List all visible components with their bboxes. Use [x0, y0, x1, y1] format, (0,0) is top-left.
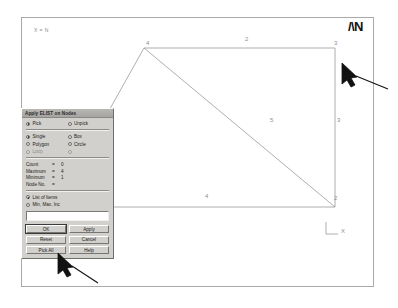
cancel-button-label: Cancel [82, 237, 96, 242]
pick-statistics: Count=0Maximum=4Minimum=1Node No.= [26, 162, 109, 187]
node-label-2: 2 [334, 195, 338, 201]
help-button-label: Help [84, 248, 93, 253]
radio-circle[interactable]: Circle [68, 142, 110, 147]
divider-2 [26, 157, 109, 159]
pick-mode-row: PickUnpick [26, 121, 109, 126]
ok-button[interactable]: OK [26, 225, 66, 233]
node-label-4: 4 [146, 40, 150, 46]
ok-button-label: OK [43, 227, 50, 232]
radio-pick-label: Pick [33, 121, 42, 126]
stat-value: 0 [61, 162, 64, 167]
radio-icon [26, 195, 30, 199]
stat-row-count: Count=0 [26, 162, 109, 167]
mesh-edge-elem-5 [144, 48, 335, 207]
stat-equals: = [52, 175, 61, 180]
coordinate-triad: X [326, 222, 345, 234]
radio-icon [68, 135, 72, 139]
reset-button-label: Reset [40, 237, 52, 242]
divider-3 [26, 190, 109, 192]
radio-single-label: Single [33, 134, 46, 139]
radio-unpick-label: Unpick [74, 121, 88, 126]
stat-label: Minimum [26, 175, 52, 180]
pick-all-button-label: Pick All [39, 248, 54, 253]
radio-icon [68, 142, 72, 146]
apply-button[interactable]: Apply [69, 225, 109, 233]
pick-shape-rows: SingleBoxPolygonCircleLoop [26, 134, 109, 154]
radio-min-max-inc[interactable]: Min, Max, Inc [26, 202, 109, 207]
node-label-3: 3 [334, 40, 338, 46]
radio-list-of-items[interactable]: List of Items [26, 195, 109, 200]
mesh-element-labels: 12345 [84, 36, 341, 199]
radio-loop-label: Loop [33, 149, 43, 154]
list-mode-row: Min, Max, Inc [26, 202, 109, 207]
radio-pick[interactable]: Pick [26, 121, 68, 126]
element-label-5: 5 [270, 117, 274, 123]
stat-row-node-no: Node No.= [26, 182, 109, 187]
element-label-2: 2 [245, 36, 249, 42]
shape-row: PolygonCircle [26, 142, 109, 147]
stat-label: Maximum [26, 169, 52, 174]
radio-loop: Loop [26, 149, 68, 154]
radio-icon [26, 142, 30, 146]
dialog-titlebar[interactable]: Apply ELIST on Nodes [22, 109, 113, 118]
stat-equals: = [52, 169, 61, 174]
stat-value: 4 [61, 169, 64, 174]
help-button[interactable]: Help [69, 246, 109, 254]
reset-button[interactable]: Reset [26, 236, 66, 244]
dialog-button-grid: OKApplyResetCancelPick AllHelp [26, 225, 109, 254]
radio-polygon-label: Polygon [33, 142, 50, 147]
cancel-button[interactable]: Cancel [69, 236, 109, 244]
radio-icon [26, 203, 30, 207]
divider-1 [26, 129, 109, 131]
radio-icon [26, 122, 30, 126]
pick-entry-input[interactable] [26, 211, 109, 221]
stat-label: Node No. [26, 182, 52, 187]
dialog-body: PickUnpick SingleBoxPolygonCircleLoop Co… [22, 118, 113, 258]
stat-label: Count [26, 162, 52, 167]
list-mode-row: List of Items [26, 195, 109, 200]
radio-unpick[interactable]: Unpick [68, 121, 110, 126]
pick-all-button[interactable]: Pick All [26, 246, 66, 254]
stat-value: 1 [61, 175, 64, 180]
radio-blank [68, 149, 110, 154]
radio-icon [26, 150, 30, 154]
radio-list-of-items-label: List of Items [33, 195, 58, 200]
radio-box[interactable]: Box [68, 134, 110, 139]
shape-row: SingleBox [26, 134, 109, 139]
radio-polygon[interactable]: Polygon [26, 142, 68, 147]
stat-equals: = [52, 182, 61, 187]
element-label-3: 3 [337, 117, 341, 123]
element-label-4: 4 [205, 193, 209, 199]
radio-circle-label: Circle [74, 142, 86, 147]
radio-icon [26, 135, 30, 139]
radio-icon [68, 122, 72, 126]
list-mode-rows: List of ItemsMin, Max, Inc [26, 195, 109, 208]
apply-button-label: Apply [83, 227, 95, 232]
stat-row-minimum: Minimum=1 [26, 175, 109, 180]
stat-equals: = [52, 162, 61, 167]
radio-single[interactable]: Single [26, 134, 68, 139]
radio-min-max-inc-label: Min, Max, Inc [33, 202, 60, 207]
radio-icon [68, 150, 72, 154]
stat-row-maximum: Maximum=4 [26, 169, 109, 174]
radio-box-label: Box [74, 134, 82, 139]
shape-row: Loop [26, 149, 109, 154]
pick-nodes-dialog[interactable]: Apply ELIST on Nodes PickUnpick SingleBo… [21, 108, 114, 259]
triad-label-x: X [341, 228, 345, 234]
dialog-title: Apply ELIST on Nodes [25, 111, 76, 116]
